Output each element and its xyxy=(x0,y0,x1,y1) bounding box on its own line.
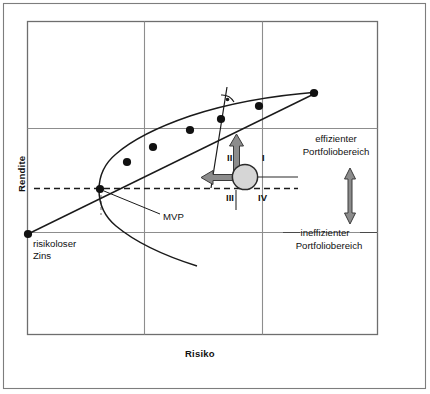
point-mvp xyxy=(96,185,104,193)
point-4 xyxy=(217,115,225,123)
mvp-label: MVP xyxy=(163,211,184,222)
inefficient-area-label-line1: ineffizienter xyxy=(290,227,360,238)
risk-free-label-line1: risikoloser xyxy=(33,238,76,249)
quadrant-label-4: IV xyxy=(258,192,267,203)
efficient-frontier-diagram xyxy=(0,0,430,394)
figure-canvas: Rendite Risiko risikoloser Zins MVP effi… xyxy=(0,0,430,394)
efficient-area-label-line2: Portfoliobereich xyxy=(290,146,382,157)
quadrant-label-1: I xyxy=(262,152,265,163)
x-axis-label: Risiko xyxy=(185,348,215,359)
point-1 xyxy=(123,158,131,166)
y-axis-label: Rendite xyxy=(16,156,27,192)
risk-free-label-line2: Zins xyxy=(33,250,51,261)
efficient-area-label-line1: effizienter xyxy=(290,133,382,144)
point-6 xyxy=(310,89,318,97)
point-3 xyxy=(186,126,194,134)
point-risk-free xyxy=(24,230,32,238)
subject-portfolio-circle xyxy=(232,164,257,189)
quadrant-label-3: III xyxy=(226,192,234,203)
point-5 xyxy=(255,102,263,110)
inefficient-area-label-line2: Portfoliobereich xyxy=(283,240,375,251)
quadrant-label-2: II xyxy=(227,152,232,163)
point-2 xyxy=(149,143,157,151)
